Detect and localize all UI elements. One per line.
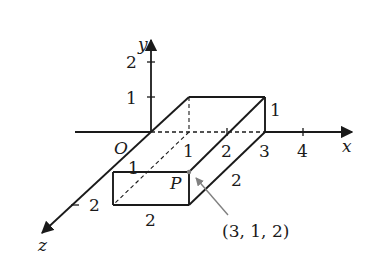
x-axis-label: x <box>342 136 352 156</box>
z-tick-label-1: 1 <box>128 158 139 178</box>
y-axis-label: y <box>137 34 148 54</box>
origin-label: O <box>114 138 128 158</box>
y-tick-label-2: 2 <box>126 52 137 72</box>
box-depth-label: 2 <box>231 170 242 190</box>
y-axis <box>147 40 155 132</box>
box-width-label: 2 <box>145 210 156 230</box>
point-coordinates-label: (3, 1, 2) <box>222 221 289 241</box>
y-tick-label-1: 1 <box>126 88 137 108</box>
point-p-marker <box>187 170 191 174</box>
z-tick-label-2: 2 <box>89 195 100 215</box>
x-tick-label-4: 4 <box>297 141 308 161</box>
x-axis <box>75 128 352 136</box>
point-p-label: P <box>169 173 182 193</box>
z-axis-label: z <box>37 235 48 255</box>
x-tick-label-2: 2 <box>221 141 232 161</box>
x-tick-label-3: 3 <box>259 141 270 161</box>
coordinate-diagram: y x z O 2 1 1 2 3 4 1 2 1 2 2 P (3, 1, 2… <box>0 0 379 271</box>
x-tick-label-1: 1 <box>183 141 194 161</box>
box-height-label: 1 <box>270 100 281 120</box>
z-axis <box>42 132 151 233</box>
